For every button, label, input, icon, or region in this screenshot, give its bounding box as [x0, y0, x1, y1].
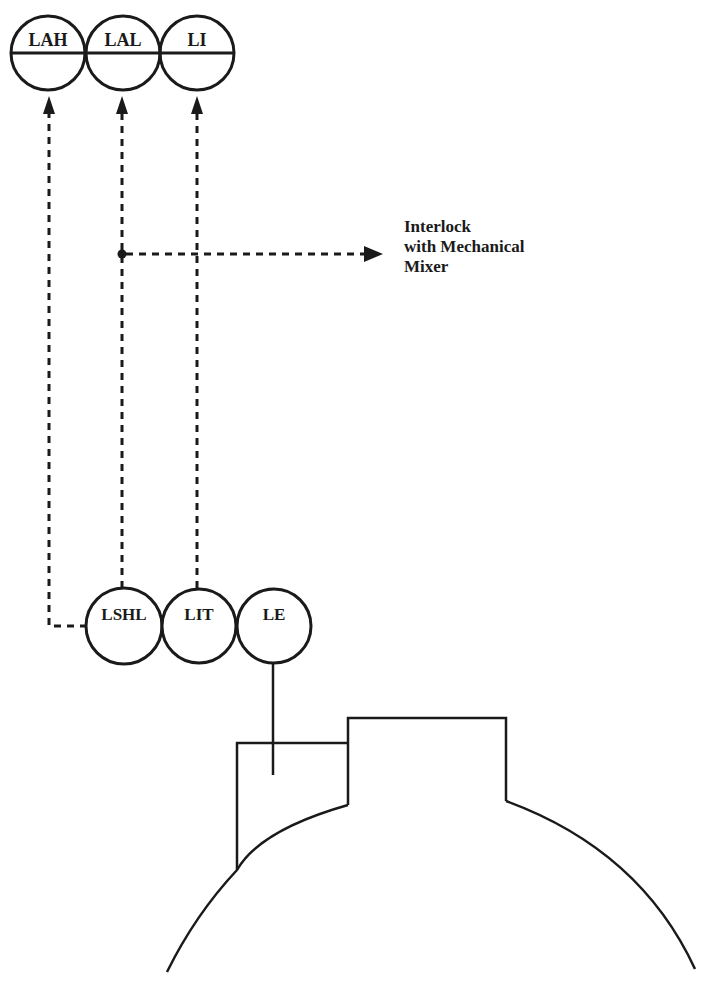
arrow-right-icon: [364, 246, 383, 262]
instrument-tag-lah: LAH: [28, 30, 67, 50]
instrument-lah: LAH: [11, 16, 85, 90]
annotation-line: Mixer: [404, 257, 524, 277]
instrument-le: LE: [237, 589, 311, 663]
instrument-lshl: LSHL: [86, 588, 162, 664]
instrument-tag-lshl: LSHL: [101, 605, 146, 624]
instrument-tag-lit: LIT: [184, 605, 214, 624]
signal-lines: [49, 114, 366, 626]
arrow-up-icon: [116, 96, 128, 114]
instrument-lit: LIT: [162, 589, 236, 663]
arrow-up-icon: [43, 96, 55, 114]
junction-dot: [118, 250, 127, 259]
signal-arrowheads: [43, 96, 203, 114]
instrument-tag-li: LI: [187, 30, 206, 50]
annotation-line: with Mechanical: [404, 237, 524, 257]
diagram-canvas: LAH LAL LI: [0, 0, 717, 984]
instrument-tag-le: LE: [263, 605, 286, 624]
vessel-dome-right: [506, 801, 695, 969]
instrument-li: LI: [160, 16, 234, 90]
instrument-lal: LAL: [86, 16, 160, 90]
signal-line-lshl-to-lah: [49, 114, 87, 626]
vessel: [167, 718, 695, 972]
diagram-svg: LAH LAL LI: [0, 0, 717, 984]
vessel-top-manway: [348, 718, 506, 805]
annotation-line: Interlock: [404, 217, 524, 237]
vessel-dome-left: [167, 805, 348, 972]
instrument-tag-lal: LAL: [104, 30, 141, 50]
interlock-annotation: Interlock with Mechanical Mixer: [404, 217, 524, 277]
arrow-up-icon: [191, 96, 203, 114]
